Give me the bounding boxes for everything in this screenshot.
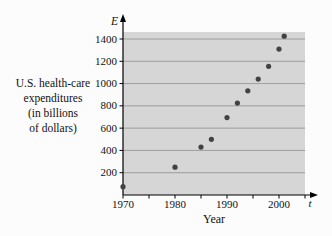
data-point	[245, 88, 250, 93]
y-tick-label: 1200	[95, 55, 118, 67]
data-point	[209, 137, 214, 142]
scatter-plot-figure: U.S. health-care expenditures (in billio…	[0, 0, 332, 236]
data-point	[120, 184, 125, 189]
x-tick-label: 1990	[216, 198, 239, 210]
data-point	[276, 46, 281, 51]
data-point	[266, 64, 271, 69]
chart-canvas: 2004006008001000120014001970198019902000…	[0, 0, 332, 236]
data-point	[172, 165, 177, 170]
data-point	[224, 115, 229, 120]
plot-area	[123, 32, 305, 195]
data-point	[282, 34, 287, 39]
x-axis-title: Year	[203, 212, 225, 226]
data-point	[198, 144, 203, 149]
x-tick-label: 1970	[112, 198, 135, 210]
y-axis-symbol: E	[110, 15, 118, 27]
y-tick-label: 800	[101, 99, 118, 111]
y-tick-label: 1000	[95, 77, 118, 89]
y-tick-label: 600	[101, 122, 118, 134]
x-tick-label: 2000	[268, 198, 291, 210]
data-point	[235, 100, 240, 105]
y-tick-label: 200	[101, 166, 118, 178]
data-point	[256, 77, 261, 82]
x-tick-label: 1980	[164, 198, 187, 210]
x-axis-symbol: t	[308, 197, 312, 209]
y-axis-arrow	[120, 14, 126, 22]
y-tick-label: 400	[101, 144, 118, 156]
y-tick-label: 1400	[95, 33, 118, 45]
